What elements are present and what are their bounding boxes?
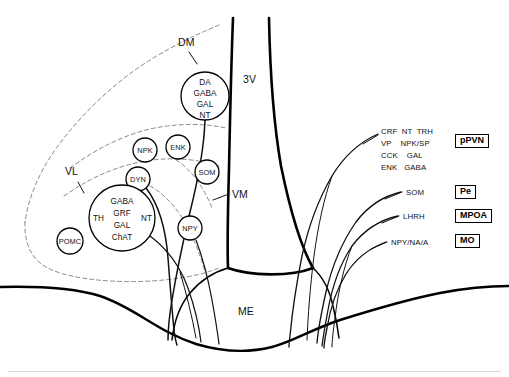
cell-label-da: DA — [181, 78, 229, 87]
leader-vm — [213, 194, 229, 200]
label-vl: VL — [65, 165, 78, 177]
cell-label-npy: NPY — [176, 224, 204, 233]
projection-mo-label: NPY/NA/A — [391, 238, 428, 247]
cell-label-nt-dm: NT — [181, 111, 229, 120]
fiber-ppvn — [289, 134, 378, 347]
region-box-mpoa: MPOA — [455, 209, 492, 223]
label-me: ME — [238, 305, 254, 317]
leader-mo — [371, 242, 387, 249]
bottom-divider — [8, 371, 501, 372]
leader-ppvn — [363, 135, 378, 144]
label-vm: VM — [232, 188, 248, 200]
projection-pe-label: SOM — [406, 188, 424, 197]
cell-label-gaba: GABA — [92, 197, 152, 206]
projection-mpoa-label: LHRH — [403, 212, 425, 221]
ventricle-wall-left — [228, 18, 233, 268]
cell-label-npk: NPK — [131, 146, 159, 155]
leader-mpoa — [382, 216, 399, 223]
label-dm: DM — [178, 36, 195, 48]
cell-label-gaba-dm: GABA — [181, 89, 229, 98]
cell-label-nt: NT — [141, 214, 152, 223]
leader-dm — [189, 52, 197, 64]
projection-ppvn-line-3: CCK GAL — [381, 151, 423, 160]
region-box-mo: MO — [455, 234, 480, 248]
projection-ppvn-line-1: CRF NT TRH — [381, 127, 433, 136]
ventricle-floor — [228, 268, 313, 274]
diagram-svg — [0, 0, 509, 377]
projection-ppvn-line-4: ENK GABA — [381, 163, 426, 172]
ventricle-wall-right — [269, 18, 313, 268]
label-3v: 3V — [243, 73, 256, 85]
arcuate-lateral-contour-right — [313, 268, 339, 338]
ventral-brain-surface — [0, 286, 509, 351]
leader-pe — [385, 192, 402, 199]
arcuate-lateral-contour-left — [172, 268, 228, 340]
cell-label-som: SOM — [193, 168, 221, 177]
cell-label-pomc: POMC — [54, 237, 86, 246]
projection-ppvn-line-2: VP NPK/SP — [381, 139, 430, 148]
cell-label-dyn: DYN — [124, 175, 152, 184]
cell-label-chat: ChAT — [92, 233, 152, 242]
region-box-ppvn: pPVN — [455, 134, 489, 148]
region-box-pe: Pe — [455, 185, 476, 199]
cell-label-gal-dm: GAL — [181, 100, 229, 109]
fiber-pe — [317, 192, 401, 343]
figure-canvas: DM 3V VL VM ME GABA GRF GAL ChAT TH NT D… — [0, 0, 509, 377]
cell-label-th: TH — [93, 214, 104, 223]
cell-label-enk: ENK — [164, 143, 192, 152]
